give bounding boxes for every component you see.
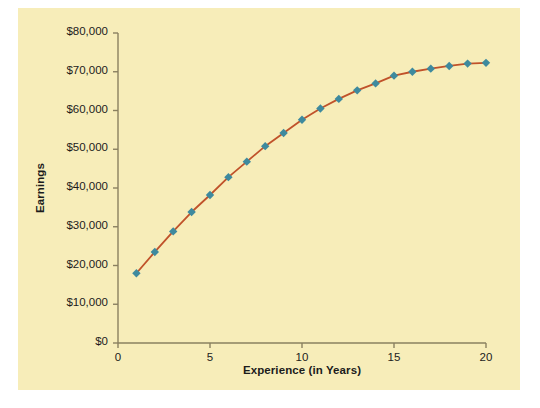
data-point-marker [482, 59, 490, 67]
y-axis-tick-label: $30,000 [40, 219, 108, 231]
y-axis-tick-label: $0 [40, 335, 108, 347]
x-axis-tick-label: 15 [372, 351, 416, 363]
data-point-marker [353, 86, 361, 94]
data-point-marker [335, 95, 343, 103]
x-axis-tick-label: 0 [96, 351, 140, 363]
data-point-marker [390, 71, 398, 79]
earnings-data-markers [132, 59, 490, 278]
axis-lines [118, 33, 486, 343]
x-axis-tick-label: 5 [188, 351, 232, 363]
y-axis-title: Earnings [12, 160, 68, 216]
data-point-marker [463, 59, 471, 67]
y-axis-tick-label: $20,000 [40, 258, 108, 270]
data-point-marker [316, 104, 324, 112]
data-point-marker [445, 62, 453, 70]
x-axis-title: Experience (in Years) [118, 364, 486, 376]
x-axis-tick-label: 10 [280, 351, 324, 363]
y-axis-tick-label: $10,000 [40, 296, 108, 308]
earnings-line [136, 63, 486, 273]
y-axis-tick-label: $80,000 [40, 25, 108, 37]
x-axis-tick-label: 20 [464, 351, 508, 363]
data-point-marker [427, 64, 435, 72]
y-axis-tick-label: $70,000 [40, 64, 108, 76]
x-axis-tick-marks [118, 343, 486, 348]
data-point-marker [371, 79, 379, 87]
y-axis-tick-label: $50,000 [40, 141, 108, 153]
data-point-marker [408, 68, 416, 76]
chart-figure: $0$10,000$20,000$30,000$40,000$50,000$60… [0, 0, 540, 408]
y-axis-tick-marks [113, 33, 118, 343]
y-axis-tick-label: $60,000 [40, 103, 108, 115]
